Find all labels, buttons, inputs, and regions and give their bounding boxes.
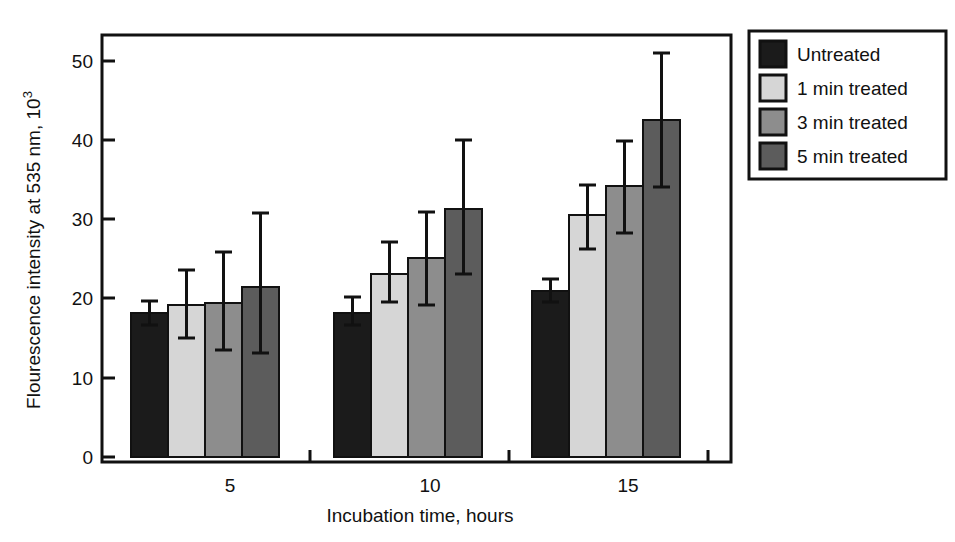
y-tick-label-10: 10 bbox=[72, 368, 93, 389]
bar-15h-1min bbox=[569, 215, 606, 457]
y-tick-label-0: 0 bbox=[82, 447, 93, 468]
legend-swatch-5min bbox=[760, 143, 786, 169]
legend: Untreated 1 min treated 3 min treated 5 … bbox=[749, 31, 946, 179]
legend-label-untreated: Untreated bbox=[797, 44, 880, 65]
x-tick-label-10: 10 bbox=[419, 475, 440, 496]
bar-10h-untreated bbox=[334, 313, 371, 457]
x-tick-label-5: 5 bbox=[225, 475, 236, 496]
y-tick-label-50: 50 bbox=[72, 51, 93, 72]
figure-root: 0 10 20 30 40 50 5 10 15 Incubation time… bbox=[0, 0, 955, 542]
legend-item-1min-treated[interactable]: 1 min treated bbox=[760, 75, 908, 101]
bar-5h-untreated bbox=[131, 313, 168, 457]
y-axis-title-superscript: 3 bbox=[20, 91, 35, 98]
svg-text:Flourescence intensity at 535: Flourescence intensity at 535 nm, 103 bbox=[20, 91, 44, 409]
legend-item-3min-treated[interactable]: 3 min treated bbox=[760, 109, 908, 135]
y-tick-label-40: 40 bbox=[72, 130, 93, 151]
y-tick-label-20: 20 bbox=[72, 288, 93, 309]
bar-chart: 0 10 20 30 40 50 5 10 15 Incubation time… bbox=[0, 0, 955, 542]
y-axis-title: Flourescence intensity at 535 nm, 10 bbox=[23, 98, 44, 409]
legend-swatch-1min bbox=[760, 75, 786, 101]
legend-item-5min-treated[interactable]: 5 min treated bbox=[760, 143, 908, 169]
y-tick-label-30: 30 bbox=[72, 209, 93, 230]
x-tick-label-15: 15 bbox=[617, 475, 638, 496]
y-axis-title-group: Flourescence intensity at 535 nm, 103 bbox=[20, 91, 44, 409]
legend-item-untreated[interactable]: Untreated bbox=[760, 41, 880, 67]
legend-label-5min: 5 min treated bbox=[797, 146, 908, 167]
legend-swatch-untreated bbox=[760, 41, 786, 67]
legend-label-3min: 3 min treated bbox=[797, 112, 908, 133]
x-axis-title: Incubation time, hours bbox=[327, 505, 514, 526]
legend-swatch-3min bbox=[760, 109, 786, 135]
legend-label-1min: 1 min treated bbox=[797, 78, 908, 99]
bar-15h-untreated bbox=[532, 291, 569, 457]
